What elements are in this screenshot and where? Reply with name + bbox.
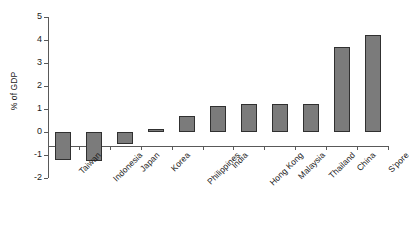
y-tick-mark — [44, 17, 48, 18]
bar — [272, 104, 288, 132]
bar — [55, 132, 71, 160]
y-tick: 3 — [48, 63, 52, 64]
bar — [241, 104, 257, 132]
x-tick-mark — [203, 146, 204, 150]
x-tick-mark — [388, 146, 389, 150]
y-tick-label: 1 — [20, 103, 42, 113]
y-tick: 4 — [48, 40, 52, 41]
y-tick-mark — [44, 109, 48, 110]
x-tick-mark — [172, 146, 173, 150]
y-tick-mark — [44, 40, 48, 41]
x-tick-mark — [295, 146, 296, 150]
y-tick-label: 3 — [20, 57, 42, 67]
x-tick-mark — [326, 146, 327, 150]
bar — [210, 106, 226, 132]
y-tick: 5 — [48, 17, 52, 18]
x-tick-label: Taiwan — [77, 150, 103, 176]
y-tick-mark — [44, 155, 48, 156]
x-tick-label: Thailand — [326, 150, 356, 180]
bar — [303, 104, 319, 132]
y-tick-mark — [44, 132, 48, 133]
y-tick-label: 4 — [20, 34, 42, 44]
y-tick: -2 — [48, 178, 52, 179]
bar — [148, 129, 164, 132]
bar — [117, 132, 133, 144]
y-tick: 1 — [48, 109, 52, 110]
y-tick-label: -2 — [20, 172, 42, 182]
x-tick-mark — [79, 146, 80, 150]
y-axis-line — [48, 17, 49, 178]
y-tick: 0 — [48, 132, 52, 133]
x-tick-label: Korea — [169, 150, 192, 173]
x-tick-mark — [110, 146, 111, 150]
y-tick-mark — [44, 178, 48, 179]
y-tick-label: 2 — [20, 80, 42, 90]
bar — [365, 35, 381, 132]
y-tick-label: 0 — [20, 126, 42, 136]
x-tick-label: China — [354, 150, 377, 173]
bar — [334, 47, 350, 132]
x-tick-label: S'pore — [386, 150, 410, 174]
x-tick-mark — [264, 146, 265, 150]
y-tick-mark — [44, 63, 48, 64]
y-tick: -1 — [48, 155, 52, 156]
y-axis-title: % of GDP — [9, 56, 19, 126]
y-tick-mark — [44, 86, 48, 87]
plot-area: 543210-1-2 TaiwanIndonesiaJapanKoreaPhil… — [48, 17, 388, 178]
y-tick-label: 5 — [20, 11, 42, 21]
x-tick-mark — [141, 146, 142, 150]
y-tick-label: -1 — [20, 149, 42, 159]
bar — [179, 116, 195, 132]
y-tick: 2 — [48, 86, 52, 87]
x-tick-mark — [357, 146, 358, 150]
